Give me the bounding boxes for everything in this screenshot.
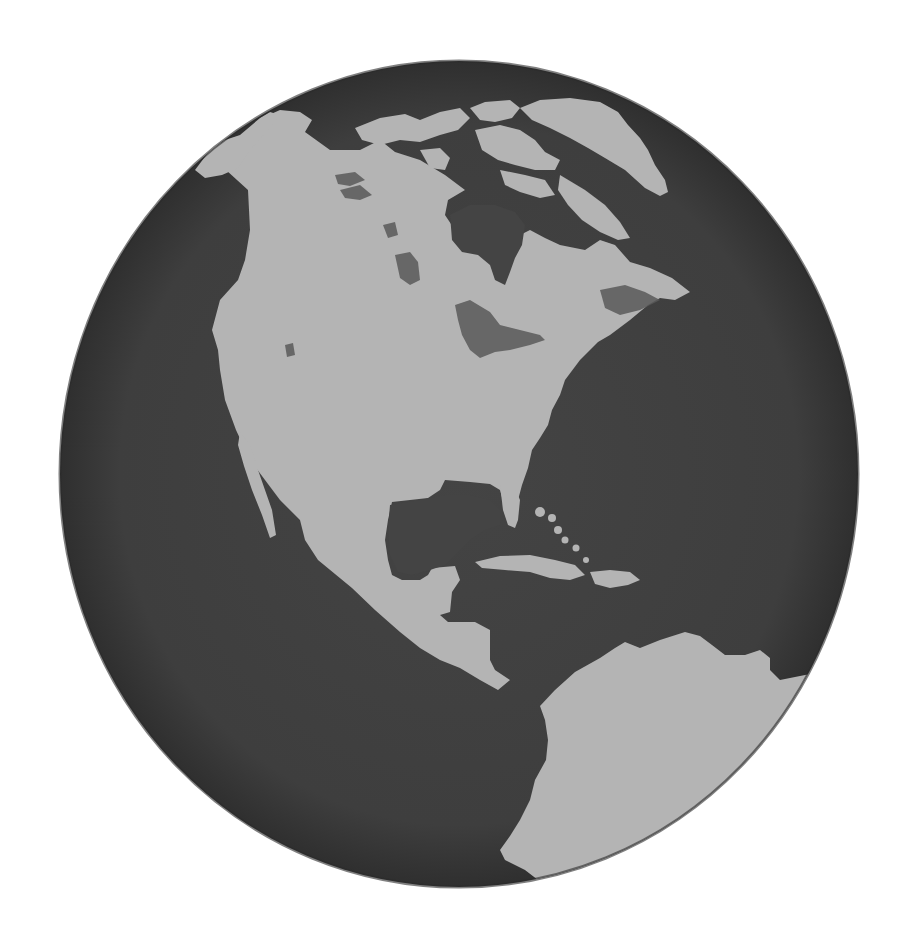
globe-illustration — [0, 0, 911, 946]
globe-image: Globe showing the Americas — [0, 0, 911, 946]
